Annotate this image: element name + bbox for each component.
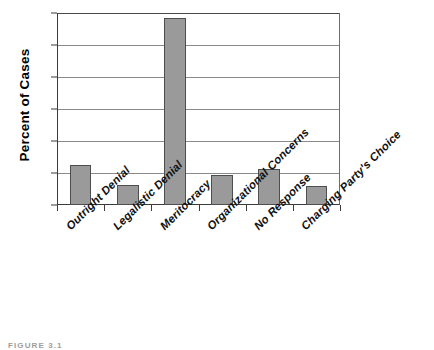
x-tick-mark <box>151 205 152 211</box>
y-tick-mark-10 <box>51 173 57 174</box>
x-tick-mark <box>340 205 341 211</box>
x-tick-mark <box>57 205 58 211</box>
x-axis-labels: 0102030405060Outright DenialLegalistic D… <box>0 0 434 350</box>
figure-bar-chart: Percent of Cases 0102030405060Outright D… <box>0 0 434 350</box>
figure-caption: FIGURE 3.1 <box>8 341 63 350</box>
x-tick-mark <box>293 205 294 211</box>
x-tick-mark <box>104 205 105 211</box>
x-tick-mark <box>199 205 200 211</box>
y-tick-mark-50 <box>51 45 57 46</box>
x-axis-label: Charging Party's Choice <box>299 128 403 232</box>
y-tick-mark-30 <box>51 109 57 110</box>
x-tick-mark <box>246 205 247 211</box>
y-tick-mark-20 <box>51 141 57 142</box>
y-tick-mark-40 <box>51 77 57 78</box>
y-tick-mark-60 <box>51 13 57 14</box>
